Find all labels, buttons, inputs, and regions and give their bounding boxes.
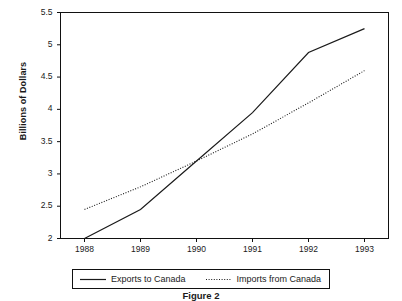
y-axis-ticks: [57, 13, 61, 239]
plot-frame: [61, 13, 389, 239]
x-tick-label: 1988: [65, 245, 105, 254]
chart-legend: Exports to Canada Imports from Canada: [72, 269, 330, 289]
y-tick-label: 5: [23, 40, 53, 49]
y-tick-label: 5.5: [23, 8, 53, 17]
y-tick-label: 4: [23, 104, 53, 113]
x-tick-label: 1990: [177, 245, 217, 254]
y-tick-label: 2: [23, 234, 53, 243]
x-tick-label: 1989: [121, 245, 161, 254]
y-tick-label: 3.5: [23, 137, 53, 146]
legend-label-exports: Exports to Canada: [111, 274, 186, 284]
x-tick-label: 1992: [289, 245, 329, 254]
legend-sample-dotted-line: [206, 275, 232, 284]
legend-item-imports: Imports from Canada: [206, 270, 322, 288]
x-tick-label: 1991: [233, 245, 273, 254]
legend-item-exports: Exports to Canada: [80, 270, 186, 288]
y-tick-label: 3: [23, 169, 53, 178]
legend-sample-solid-line: [80, 275, 106, 284]
y-tick-label: 2.5: [23, 201, 53, 210]
x-axis-ticks: [85, 239, 365, 243]
y-tick-label: 4.5: [23, 72, 53, 81]
x-tick-label: 1993: [345, 245, 385, 254]
legend-label-imports: Imports from Canada: [237, 274, 322, 284]
figure-caption: Figure 2: [0, 290, 402, 301]
